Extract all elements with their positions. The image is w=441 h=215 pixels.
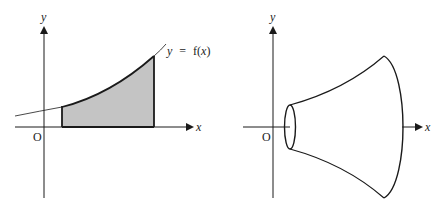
curve-label-y: y — [166, 44, 173, 58]
right-x-axis-label: x — [424, 120, 431, 134]
curve-equation-label: y = f(x) — [166, 44, 210, 58]
solid-top-profile — [290, 56, 384, 105]
right-figure: y x O — [243, 10, 431, 198]
left-x-axis-label: x — [195, 120, 202, 134]
left-figure: y x O y = f(x) — [15, 10, 210, 198]
solid-bottom-profile — [290, 149, 384, 198]
diagram-canvas: y x O y = f(x) y x O — [0, 0, 441, 215]
right-x-axis-arrow-icon — [415, 123, 423, 131]
left-origin-label: O — [33, 130, 42, 144]
right-y-axis-label: y — [269, 10, 276, 24]
y-axis-arrow-icon — [40, 26, 48, 34]
curve-right-extension — [154, 44, 166, 56]
curve-label-equals: = — [179, 44, 186, 58]
x-axis-arrow-icon — [186, 123, 194, 131]
left-y-axis-label: y — [40, 10, 47, 24]
right-origin-label: O — [262, 130, 271, 144]
right-y-axis-arrow-icon — [269, 26, 277, 34]
curve-label-close: ) — [206, 44, 210, 58]
curve-label-f: f( — [193, 44, 201, 58]
solid-large-end — [384, 56, 403, 198]
curve-left-extension — [15, 107, 62, 116]
